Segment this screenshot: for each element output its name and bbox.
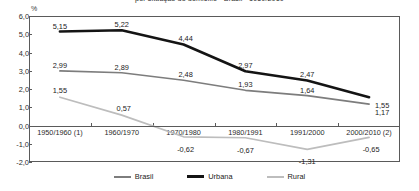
data-point-label: 1,93 xyxy=(238,80,252,89)
y-axis-tick-mark xyxy=(29,162,32,163)
legend-item-brasil[interactable]: Brasil xyxy=(114,172,153,181)
x-axis-tick-label: 1950/1960 (1) xyxy=(37,128,82,137)
legend-label: Rural xyxy=(288,172,306,181)
data-point-label: 1,55 xyxy=(375,101,389,110)
plot-area-frame xyxy=(29,16,400,162)
data-point-label: -0,67 xyxy=(237,146,254,155)
y-axis-tick-label: 5,0 xyxy=(3,30,29,39)
y-axis-tick-mark xyxy=(29,144,32,145)
data-point-label: 2,89 xyxy=(115,63,129,72)
data-point-label: 1,64 xyxy=(300,86,314,95)
y-axis-tick-label: 6,0 xyxy=(3,12,29,21)
chart-legend: BrasilUrbanaRural xyxy=(0,172,419,181)
chart-page: por situação do domicílio - Brasil - 195… xyxy=(0,0,419,191)
legend-swatch-icon xyxy=(187,175,204,178)
data-point-label: 2,47 xyxy=(300,70,314,79)
y-axis-tick-label: -2,0 xyxy=(3,158,29,167)
y-axis-tick-mark xyxy=(29,16,32,17)
y-axis-tick-label: 3,0 xyxy=(3,66,29,75)
x-axis-tick-label: 1991/2000 xyxy=(290,128,325,137)
x-axis-tick-label: 1970/1980 xyxy=(166,128,201,137)
data-point-label: 4,44 xyxy=(178,34,192,43)
data-point-label: 2,97 xyxy=(238,61,252,70)
data-point-label: 0,57 xyxy=(117,104,131,113)
data-point-label: 5,15 xyxy=(53,22,67,31)
data-point-label: -0,65 xyxy=(363,145,380,154)
data-point-label: -0,62 xyxy=(177,145,194,154)
y-axis-tick-mark xyxy=(29,71,32,72)
legend-item-rural[interactable]: Rural xyxy=(267,172,306,181)
legend-label: Urbana xyxy=(208,172,232,181)
legend-swatch-icon xyxy=(267,176,284,178)
data-point-label: 5,22 xyxy=(115,20,129,29)
data-point-label: 2,48 xyxy=(178,70,192,79)
y-axis-tick-label: 4,0 xyxy=(3,48,29,57)
legend-swatch-icon xyxy=(114,176,131,178)
chart-title: por situação do domicílio - Brasil - 195… xyxy=(0,0,419,3)
y-axis-tick-label: 0,0 xyxy=(3,121,29,130)
y-axis-tick-label: 1,0 xyxy=(3,103,29,112)
x-axis-tick-label: 1960/1970 xyxy=(105,128,140,137)
legend-label: Brasil xyxy=(135,172,153,181)
data-point-label: -1,31 xyxy=(299,157,316,166)
y-axis-tick-mark xyxy=(29,89,32,90)
y-axis: 6,05,04,03,02,01,00,0-1,0-2,0 xyxy=(0,0,29,191)
x-axis-tick-label: 2000/2010 (2) xyxy=(346,128,391,137)
y-axis-tick-mark xyxy=(29,107,32,108)
y-axis-tick-label: -1,0 xyxy=(3,139,29,148)
y-axis-tick-mark xyxy=(29,53,32,54)
zero-baseline xyxy=(29,126,400,127)
data-point-label: 1,55 xyxy=(53,86,67,95)
data-point-label: 2,99 xyxy=(53,61,67,70)
x-axis-tick-label: 1980/1991 xyxy=(228,128,263,137)
y-axis-unit-label: % xyxy=(31,5,37,12)
y-axis-tick-mark xyxy=(29,34,32,35)
y-axis-tick-label: 2,0 xyxy=(3,85,29,94)
legend-item-urbana[interactable]: Urbana xyxy=(187,172,232,181)
